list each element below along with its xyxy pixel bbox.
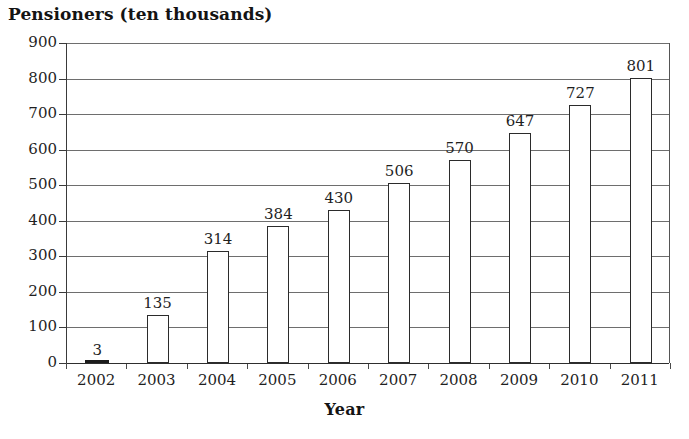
bar-slot: 135	[127, 43, 187, 363]
x-tick-label-2008: 2008	[428, 371, 488, 389]
bar-2004[interactable]	[207, 251, 229, 363]
chart-screenshot: Pensioners (ten thousands) 0100200300400…	[0, 0, 689, 439]
bar-value-label-2003: 135	[143, 294, 172, 312]
bar-slot: 384	[248, 43, 308, 363]
y-tick-label-0: 0	[47, 353, 57, 371]
bar-value-label-2010: 727	[566, 84, 595, 102]
gridline-0	[67, 363, 669, 364]
y-tick-mark-200	[59, 292, 66, 293]
y-tick-label-700: 700	[28, 104, 57, 122]
bar-slot: 647	[490, 43, 550, 363]
x-tick-mark	[670, 363, 671, 369]
x-tick-label-2002: 2002	[66, 371, 126, 389]
x-tick-label-2005: 2005	[247, 371, 307, 389]
bar-2007[interactable]	[388, 183, 410, 363]
bar-2005[interactable]	[267, 226, 289, 363]
y-tick-mark-300	[59, 256, 66, 257]
y-tick-mark-900	[59, 43, 66, 44]
x-tick-label-2006: 2006	[308, 371, 368, 389]
plot-area: 3135314384430506570647727801	[66, 43, 670, 363]
y-tick-mark-100	[59, 327, 66, 328]
bar-value-label-2002: 3	[92, 341, 102, 359]
y-tick-mark-700	[59, 114, 66, 115]
x-tick-label-2009: 2009	[489, 371, 549, 389]
bar-2009[interactable]	[509, 133, 531, 363]
bar-slot: 506	[369, 43, 429, 363]
y-tick-label-200: 200	[28, 282, 57, 300]
bar-slot: 3	[67, 43, 127, 363]
bar-2003[interactable]	[147, 315, 169, 363]
y-tick-mark-400	[59, 221, 66, 222]
y-tick-label-900: 900	[28, 33, 57, 51]
bar-2006[interactable]	[328, 210, 350, 363]
bar-value-label-2006: 430	[324, 189, 353, 207]
y-tick-label-100: 100	[28, 317, 57, 335]
bar-slot: 570	[429, 43, 489, 363]
y-tick-label-300: 300	[28, 246, 57, 264]
bar-2002[interactable]	[85, 360, 109, 363]
bar-value-label-2011: 801	[626, 57, 655, 75]
x-tick-label-2011: 2011	[610, 371, 670, 389]
y-tick-mark-0	[59, 363, 66, 364]
y-tick-label-400: 400	[28, 211, 57, 229]
y-tick-label-500: 500	[28, 175, 57, 193]
x-tick-label-2003: 2003	[126, 371, 186, 389]
bar-value-label-2009: 647	[506, 112, 535, 130]
y-tick-mark-500	[59, 185, 66, 186]
y-tick-label-800: 800	[28, 69, 57, 87]
chart-title: Pensioners (ten thousands)	[8, 4, 272, 24]
bar-slot: 430	[309, 43, 369, 363]
y-tick-mark-800	[59, 79, 66, 80]
bar-slot: 801	[611, 43, 671, 363]
bar-slot: 314	[188, 43, 248, 363]
bar-2008[interactable]	[449, 160, 471, 363]
y-tick-mark-600	[59, 150, 66, 151]
x-tick-label-2004: 2004	[187, 371, 247, 389]
bar-2011[interactable]	[630, 78, 652, 363]
bar-2010[interactable]	[569, 105, 591, 363]
x-tick-label-2010: 2010	[549, 371, 609, 389]
x-axis-title: Year	[0, 400, 689, 419]
x-tick-label-2007: 2007	[368, 371, 428, 389]
bar-value-label-2005: 384	[264, 205, 293, 223]
bar-value-label-2004: 314	[204, 230, 233, 248]
y-tick-label-600: 600	[28, 140, 57, 158]
bar-value-label-2008: 570	[445, 139, 474, 157]
bar-value-label-2007: 506	[385, 162, 414, 180]
bar-slot: 727	[550, 43, 610, 363]
